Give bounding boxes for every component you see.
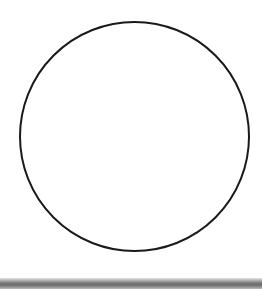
bottom-scroll-bar (0, 278, 262, 289)
circle-shape (20, 22, 249, 251)
circle-diagram (0, 0, 262, 278)
drawing-canvas (0, 0, 262, 278)
